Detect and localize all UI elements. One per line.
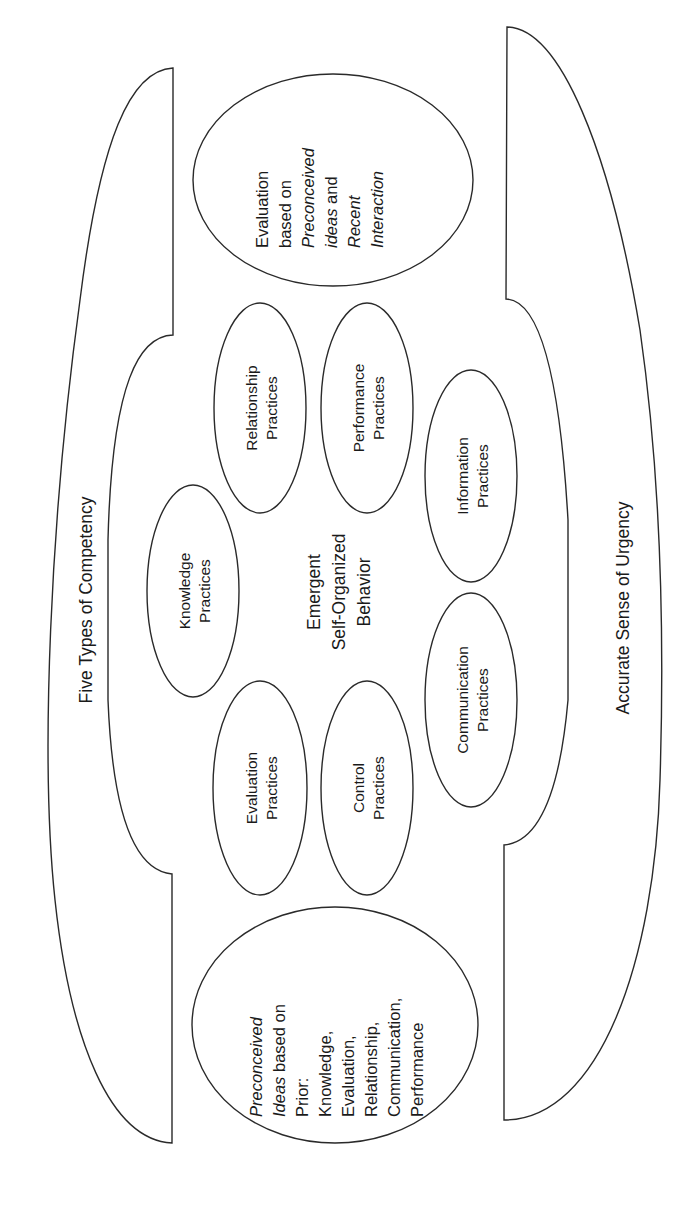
relationship-practices-oval <box>214 303 306 513</box>
output-oval-label: Evaluation based on Preconceived ideas a… <box>253 147 386 248</box>
svg-text:Evaluation: Evaluation <box>243 752 260 824</box>
svg-text:Practices: Practices <box>370 756 387 820</box>
svg-text:Ideas based on: Ideas based on <box>270 1004 288 1117</box>
evaluation-practices-oval <box>213 681 307 895</box>
center-label: Emergent Self-Organized Behavior <box>304 534 374 651</box>
control-practices-label: Control Practices <box>350 756 387 820</box>
svg-text:Practices: Practices <box>474 668 491 732</box>
competency-diagram: Five Types of Competency Accurate Sense … <box>0 0 690 1217</box>
svg-text:Preconceived: Preconceived <box>299 147 317 248</box>
svg-text:Performance: Performance <box>350 364 367 453</box>
input-oval <box>192 907 478 1143</box>
svg-text:Knowledge: Knowledge <box>176 553 193 630</box>
svg-text:Practices: Practices <box>263 756 280 820</box>
svg-text:Practices: Practices <box>196 559 213 623</box>
svg-text:Evaluation,: Evaluation, <box>339 1035 357 1117</box>
svg-text:Control: Control <box>350 763 367 813</box>
svg-text:Communication,: Communication, <box>385 998 403 1117</box>
svg-text:Recent: Recent <box>345 194 363 248</box>
communication-practices-oval <box>425 593 517 807</box>
svg-text:Preconceived: Preconceived <box>247 1016 265 1117</box>
svg-text:Behavior: Behavior <box>354 557 374 626</box>
urgency-frame <box>504 27 662 1120</box>
svg-text:Knowledge,: Knowledge, <box>316 1031 334 1117</box>
five-types-label: Five Types of Competency <box>76 496 96 703</box>
svg-text:Practices: Practices <box>474 444 491 508</box>
input-oval-label: Preconceived Ideas based on Prior: Knowl… <box>247 998 426 1117</box>
performance-practices-oval <box>321 303 413 513</box>
ideas-italic: Ideas <box>270 1077 288 1117</box>
svg-text:Performance: Performance <box>408 1023 426 1117</box>
svg-text:ideas and: ideas and <box>322 176 340 248</box>
svg-text:based on: based on <box>276 180 294 248</box>
svg-text:Practices: Practices <box>370 376 387 440</box>
information-practices-oval <box>425 370 517 582</box>
svg-text:Emergent: Emergent <box>304 554 324 630</box>
competency-frame <box>48 68 173 1143</box>
information-practices-label: Information Practices <box>454 437 491 515</box>
svg-text:Relationship: Relationship <box>243 365 260 450</box>
svg-text:Practices: Practices <box>263 376 280 440</box>
evaluation-practices-label: Evaluation Practices <box>243 752 280 824</box>
svg-text:Communication: Communication <box>454 646 471 754</box>
svg-text:Evaluation: Evaluation <box>253 171 271 248</box>
relationship-practices-label: Relationship Practices <box>243 365 280 450</box>
svg-text:Relationship,: Relationship, <box>362 1022 380 1117</box>
urgency-label: Accurate Sense of Urgency <box>613 501 633 714</box>
control-practices-oval <box>321 681 413 895</box>
svg-text:Interaction: Interaction <box>368 171 386 248</box>
ideas-italic: ideas <box>322 209 340 248</box>
knowledge-practices-oval <box>147 485 239 697</box>
svg-text:Prior:: Prior: <box>293 1078 311 1117</box>
communication-practices-label: Communication Practices <box>454 646 491 754</box>
performance-practices-label: Performance Practices <box>350 364 387 453</box>
svg-text:Information: Information <box>454 437 471 515</box>
knowledge-practices-label: Knowledge Practices <box>176 553 213 630</box>
svg-text:Self-Organized: Self-Organized <box>329 534 349 651</box>
